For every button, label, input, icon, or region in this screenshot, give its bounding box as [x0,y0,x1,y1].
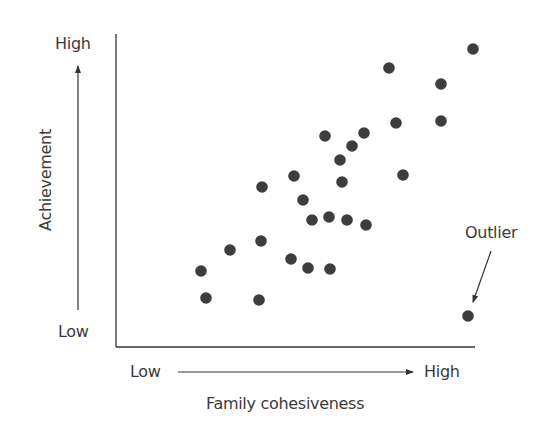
y-axis-title: Achievement [36,125,55,235]
data-point [435,115,447,127]
data-point [297,194,309,206]
data-point [195,265,207,277]
scatter-plot [0,0,547,430]
y-low-label: Low [58,322,89,341]
x-high-label: High [424,362,460,381]
data-point [358,127,370,139]
data-point [467,43,479,55]
data-point [390,117,402,129]
data-point [224,244,236,256]
data-point [435,78,447,90]
data-point [397,169,409,181]
outlier-annotation: Outlier [465,223,517,242]
data-point [256,181,268,193]
data-point [336,176,348,188]
data-point [324,263,336,275]
data-point [253,294,265,306]
data-points [195,43,479,322]
data-point [255,235,267,247]
data-point [323,211,335,223]
data-point [360,219,372,231]
data-point [306,214,318,226]
data-point [319,130,331,142]
x-axis-title: Family cohesiveness [206,394,364,413]
data-point [346,140,358,152]
data-point [341,214,353,226]
data-point [288,170,300,182]
data-point [200,292,212,304]
outlier-arrow [473,251,491,302]
data-point [302,262,314,274]
outlier-point [462,310,474,322]
y-high-label: High [55,34,91,53]
data-point [285,253,297,265]
data-point [383,62,395,74]
data-point [334,154,346,166]
x-low-label: Low [130,362,161,381]
